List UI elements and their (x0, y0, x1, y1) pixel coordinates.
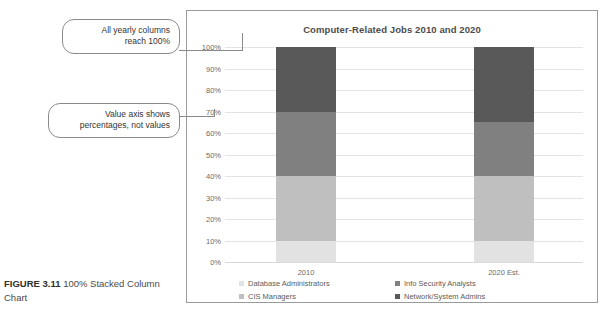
legend-row: Database Administrators Info Security An… (239, 279, 559, 288)
legend-item-cis-managers: CIS Managers (239, 292, 395, 301)
legend-label: Network/System Admins (404, 292, 485, 301)
bar-segment (276, 241, 336, 263)
legend-item-database-administrators: Database Administrators (239, 279, 395, 288)
legend-item-info-security-analysts: Info Security Analysts (395, 279, 476, 288)
legend-label: Info Security Analysts (404, 279, 476, 288)
legend-item-network-system-admins: Network/System Admins (395, 292, 485, 301)
y-axis-tick-label: 40% (206, 172, 221, 181)
legend-row: CIS Managers Network/System Admins (239, 292, 559, 301)
y-axis-tick-label: 20% (206, 215, 221, 224)
bar-column: 2010 (276, 47, 336, 262)
callout-line: All yearly columns (71, 25, 170, 36)
figure-caption: FIGURE 3.11 100% Stacked Column Chart (4, 277, 180, 305)
callout-line: Value axis shows (57, 109, 170, 120)
bar-segment (474, 122, 534, 176)
callout-line: percentages, not values (57, 120, 170, 131)
callout-value-axis-percentages: Value axis shows percentages, not values (48, 103, 180, 138)
callout-leader-line (179, 33, 243, 51)
plot-area: 0%10%20%30%40%50%60%70%80%90%100% 201020… (225, 47, 583, 262)
chart-legend: Database Administrators Info Security An… (239, 279, 559, 305)
legend-label: Database Administrators (248, 279, 330, 288)
bar-segment (474, 241, 534, 263)
legend-swatch-icon (395, 294, 400, 299)
bar-segment (474, 47, 534, 122)
legend-swatch-icon (239, 281, 244, 286)
x-axis-tick-label: 2010 (236, 268, 376, 277)
callout-all-columns-reach-100: All yearly columns reach 100% (62, 19, 180, 54)
y-axis-tick-label: 50% (206, 150, 221, 159)
callout-leader-line (179, 116, 215, 118)
callout-leader-line (214, 109, 216, 117)
bar-segment (276, 112, 336, 177)
gridline: 0% (225, 262, 583, 263)
x-axis-tick-label: 2020 Est. (434, 268, 574, 277)
callout-line: reach 100% (71, 36, 170, 47)
y-axis-tick-label: 30% (206, 193, 221, 202)
bar-column: 2020 Est. (474, 47, 534, 262)
figure-caption-label: FIGURE 3.11 (4, 278, 61, 289)
chart-panel: Computer-Related Jobs 2010 and 2020 0%10… (186, 10, 598, 303)
legend-swatch-icon (395, 281, 400, 286)
bar-segment (276, 47, 336, 112)
chart-title: Computer-Related Jobs 2010 and 2020 (187, 24, 597, 35)
y-axis-tick-label: 10% (206, 236, 221, 245)
legend-label: CIS Managers (248, 292, 296, 301)
y-axis-tick-label: 0% (210, 258, 221, 267)
bar-segment (474, 176, 534, 241)
y-axis-tick-label: 90% (206, 64, 221, 73)
y-axis-tick-label: 80% (206, 86, 221, 95)
bar-segment (276, 176, 336, 241)
legend-swatch-icon (239, 294, 244, 299)
callout-leader-line (242, 33, 244, 50)
y-axis-tick-label: 60% (206, 129, 221, 138)
